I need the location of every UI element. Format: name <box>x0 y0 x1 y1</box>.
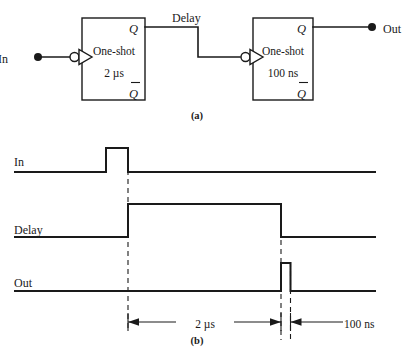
block-2-qbar-label: Q <box>297 84 306 102</box>
block-2-name-label: One-shot <box>255 41 311 59</box>
arrowhead-left-2us <box>128 318 139 326</box>
inverting-bubble-icon-1 <box>70 53 79 62</box>
waveform-delay <box>14 204 376 237</box>
block-1-q-label: Q <box>129 19 138 37</box>
output-terminal-label: Out <box>383 19 401 37</box>
waveform-in <box>14 148 376 172</box>
delay-net-label: Delay <box>172 8 201 26</box>
block-2-duration-label: 100 ns <box>255 63 311 81</box>
panel-a-caption: (a) <box>0 105 394 123</box>
block-1-duration-label: 2 µs <box>86 63 142 81</box>
output-terminal-dot <box>368 23 376 31</box>
delay-interconnect-wire <box>145 27 240 57</box>
waveform-out <box>14 263 376 291</box>
panel-a-schematic <box>34 18 376 100</box>
input-terminal-label: In <box>0 49 8 67</box>
arrowhead-left-100ns <box>291 318 302 326</box>
panel-b-timing <box>14 148 376 340</box>
inverting-bubble-icon-2 <box>241 53 250 62</box>
block-1-name-label: One-shot <box>86 41 142 59</box>
arrowhead-right-2us <box>270 318 281 326</box>
panel-b-caption: (b) <box>0 330 394 348</box>
block-1-qbar-label: Q <box>129 84 138 102</box>
block-2-q-label: Q <box>297 19 306 37</box>
dimension-100ns <box>291 313 344 331</box>
signal-label-delay: Delay <box>14 220 43 238</box>
signal-label-in: In <box>14 152 24 170</box>
signal-label-out: Out <box>14 273 32 291</box>
